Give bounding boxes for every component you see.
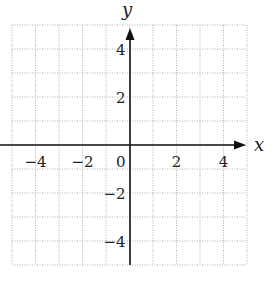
coordinate-plane: x y −4−2024 42−2−4 <box>0 0 275 290</box>
x-tick-label: 2 <box>172 153 182 171</box>
x-axis-arrow-icon <box>234 141 246 150</box>
y-tick-label: −4 <box>103 233 125 251</box>
y-tick-label: 2 <box>116 89 126 107</box>
x-tick-label: −4 <box>24 153 46 171</box>
x-tick-label: 4 <box>219 153 229 171</box>
y-tick-label: −2 <box>103 185 125 203</box>
x-tick-label: −2 <box>71 153 93 171</box>
y-tick-label: 4 <box>116 41 126 59</box>
axes <box>0 28 246 265</box>
x-tick-labels: −4−2024 <box>24 153 228 171</box>
y-axis-label: y <box>121 0 133 20</box>
x-axis-label: x <box>254 134 264 155</box>
y-axis-arrow-icon <box>126 28 135 40</box>
x-tick-label: 0 <box>116 153 126 171</box>
